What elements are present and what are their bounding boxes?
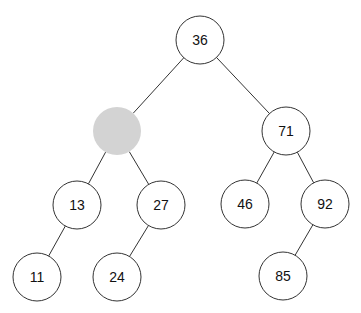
node-label: 36 — [192, 32, 208, 48]
tree-node: 11 — [13, 253, 61, 301]
edge-n13-n11 — [49, 226, 66, 256]
tree-node: 71 — [262, 107, 310, 155]
node-label: 27 — [153, 197, 169, 213]
node-label: 85 — [275, 268, 291, 284]
tree-node: 24 — [93, 253, 141, 301]
edge-n71-n92 — [297, 152, 313, 183]
edge-nblank-n27 — [129, 152, 148, 185]
tree-node: 13 — [53, 181, 101, 229]
tree-node-highlighted — [93, 107, 141, 155]
node-label: 13 — [69, 197, 85, 213]
tree-node: 46 — [221, 180, 269, 228]
edge-n36-n71 — [216, 57, 269, 113]
edge-n27-n24 — [130, 225, 149, 256]
nodes-layer: 367113274692112485 — [13, 16, 349, 301]
tree-node: 36 — [176, 16, 224, 64]
edge-n36-nblank — [133, 58, 184, 114]
edge-nblank-n13 — [88, 152, 105, 184]
tree-node: 27 — [137, 181, 185, 229]
node-label: 11 — [30, 269, 45, 285]
binary-tree-diagram: 367113274692112485 — [0, 0, 361, 313]
node-label: 24 — [109, 269, 125, 285]
tree-node: 92 — [301, 180, 349, 228]
node-label: 71 — [278, 123, 294, 139]
node-circle — [93, 107, 141, 155]
edge-n71-n46 — [257, 152, 274, 183]
edge-n92-n85 — [295, 225, 313, 256]
node-label: 46 — [237, 196, 253, 212]
tree-node: 85 — [259, 252, 307, 300]
node-label: 92 — [317, 196, 333, 212]
